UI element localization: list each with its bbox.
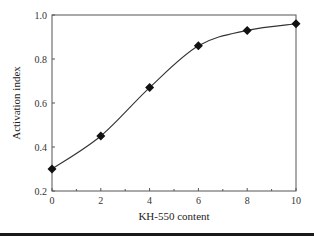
x-tick-label: 0 [50, 195, 55, 206]
plot-frame [52, 15, 296, 191]
bottom-rule [0, 233, 314, 236]
y-tick-label: 0.4 [35, 142, 48, 153]
chart: 02468100.20.40.60.81.0 KH-550 content Ac… [0, 0, 314, 236]
diamond-marker [48, 165, 57, 174]
diamond-marker [292, 19, 301, 28]
y-tick-label: 0.2 [35, 186, 48, 197]
x-tick-label: 10 [291, 195, 301, 206]
y-tick-label: 0.6 [35, 98, 48, 109]
axis-ticks: 02468100.20.40.60.81.0 [35, 10, 302, 207]
y-tick-label: 0.8 [35, 54, 48, 65]
diamond-marker [243, 26, 252, 35]
y-axis-label: Activation index [10, 66, 22, 140]
data-curve [52, 24, 296, 169]
x-tick-label: 6 [196, 195, 201, 206]
x-tick-label: 4 [147, 195, 152, 206]
plot-area [52, 15, 296, 191]
diamond-marker [194, 41, 203, 50]
x-tick-label: 2 [98, 195, 103, 206]
x-axis-label: KH-550 content [138, 210, 209, 222]
x-tick-label: 8 [245, 195, 250, 206]
data-markers [48, 19, 301, 173]
y-tick-label: 1.0 [35, 10, 48, 21]
